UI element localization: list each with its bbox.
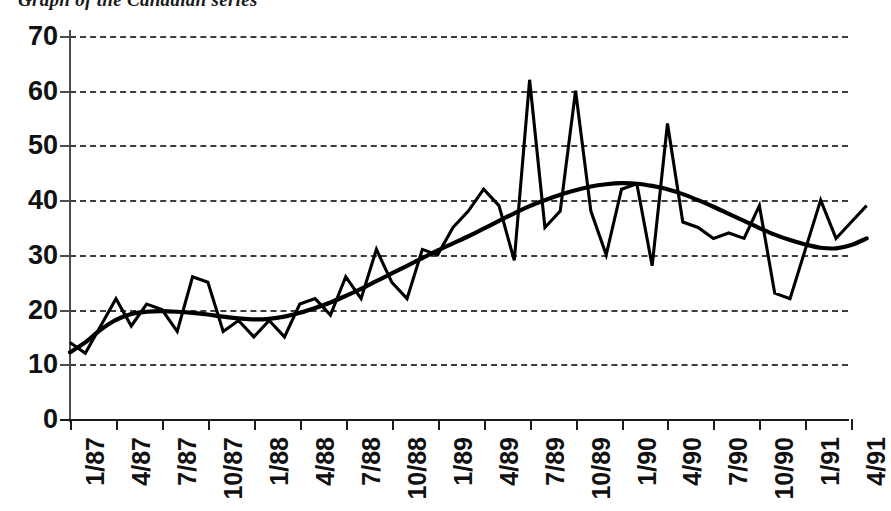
y-tick-label-20: 20 bbox=[6, 294, 58, 325]
x-tick-4-89 bbox=[484, 419, 486, 430]
x-tick-10-89 bbox=[576, 419, 578, 430]
x-tick-label-7-88: 7/88 bbox=[357, 437, 386, 486]
x-tick-label-4-90: 4/90 bbox=[678, 437, 707, 486]
x-tick-10-90 bbox=[759, 419, 761, 430]
x-tick-4-87 bbox=[116, 419, 118, 430]
x-tick-label-4-88: 4/88 bbox=[311, 437, 340, 486]
plot-area bbox=[70, 36, 848, 419]
x-tick-1-89 bbox=[438, 419, 440, 430]
x-tick-1-88 bbox=[254, 419, 256, 430]
x-tick-label-10-88: 10/88 bbox=[403, 437, 432, 500]
x-tick-10-87 bbox=[208, 419, 210, 430]
x-tick-1-90 bbox=[622, 419, 624, 430]
x-tick-7-89 bbox=[530, 419, 532, 430]
y-axis-labels: 010203040506070 bbox=[0, 0, 58, 511]
y-tick-label-40: 40 bbox=[6, 185, 58, 216]
x-tick-label-10-90: 10/90 bbox=[770, 437, 799, 500]
x-tick-label-1-91: 1/91 bbox=[816, 437, 845, 486]
x-tick-7-88 bbox=[346, 419, 348, 430]
x-tick-label-1-89: 1/89 bbox=[449, 437, 478, 486]
x-tick-label-10-87: 10/87 bbox=[219, 437, 248, 500]
y-tick-label-0: 0 bbox=[6, 404, 58, 435]
x-tick-4-88 bbox=[300, 419, 302, 430]
x-tick-label-1-90: 1/90 bbox=[633, 437, 662, 486]
x-axis-line bbox=[60, 419, 849, 421]
y-tick-label-10: 10 bbox=[6, 349, 58, 380]
x-tick-1-87 bbox=[70, 419, 72, 430]
x-tick-7-90 bbox=[713, 419, 715, 430]
y-tick-label-70: 70 bbox=[6, 21, 58, 52]
x-tick-label-4-89: 4/89 bbox=[495, 437, 524, 486]
y-tick-label-60: 60 bbox=[6, 75, 58, 106]
x-tick-label-4-87: 4/87 bbox=[127, 437, 156, 486]
x-tick-7-87 bbox=[162, 419, 164, 430]
x-tick-label-7-90: 7/90 bbox=[724, 437, 753, 486]
series-layer bbox=[70, 36, 848, 419]
x-tick-label-1-87: 1/87 bbox=[81, 437, 110, 486]
y-tick-label-30: 30 bbox=[6, 239, 58, 270]
x-tick-label-7-89: 7/89 bbox=[541, 437, 570, 486]
x-tick-label-10-89: 10/89 bbox=[587, 437, 616, 500]
x-tick-4-90 bbox=[667, 419, 669, 430]
x-tick-4-91 bbox=[851, 419, 853, 430]
y-tick-label-50: 50 bbox=[6, 130, 58, 161]
x-tick-1-91 bbox=[805, 419, 807, 430]
x-tick-label-1-88: 1/88 bbox=[265, 437, 294, 486]
x-tick-10-88 bbox=[392, 419, 394, 430]
x-tick-label-4-91: 4/91 bbox=[862, 437, 891, 486]
x-tick-label-7-87: 7/87 bbox=[173, 437, 202, 486]
